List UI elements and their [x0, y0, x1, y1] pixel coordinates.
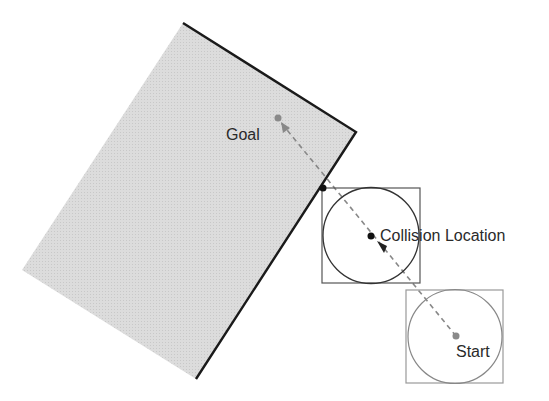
obstacle-region — [22, 23, 356, 379]
collision-dot — [368, 233, 375, 240]
goal-dot — [275, 115, 282, 122]
goal-label: Goal — [226, 126, 260, 143]
diagram-canvas: Goal Collision Location Start — [0, 0, 549, 401]
contact-point — [320, 185, 327, 192]
collision-label: Collision Location — [380, 227, 505, 244]
start-dot — [453, 333, 460, 340]
start-label: Start — [456, 343, 490, 360]
